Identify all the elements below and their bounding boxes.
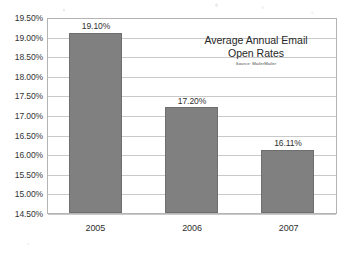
y-axis-tick-label: 16.50% (15, 131, 43, 140)
bar-2006[interactable]: 17.20% (165, 107, 218, 213)
x-axis-label-2007: 2007 (240, 216, 337, 236)
y-axis-tick-label: 15.50% (15, 171, 43, 180)
y-axis-tick-label: 19.00% (15, 33, 43, 42)
bar-2007[interactable]: 16.11% (261, 150, 314, 213)
x-axis: 200520062007 (47, 216, 337, 236)
plot-area: 19.10%17.20%16.11% Average Annual Email … (47, 18, 337, 214)
bar-value-label: 17.20% (178, 97, 206, 106)
y-axis: 19.50%19.00%18.50%18.00%17.50%17.00%16.5… (0, 18, 47, 214)
y-axis-tick-label: 17.00% (15, 112, 43, 121)
y-axis-tick-label: 19.50% (15, 14, 43, 23)
y-axis-tick-label: 18.00% (15, 73, 43, 82)
bar-slot: 17.20% (144, 18, 240, 213)
bar-slot: 16.11% (240, 18, 336, 213)
bar-slot: 19.10% (48, 18, 144, 213)
x-axis-label-2006: 2006 (144, 216, 241, 236)
y-axis-tick-label: 18.50% (15, 53, 43, 62)
x-axis-label-2005: 2005 (47, 216, 144, 236)
gridline (48, 214, 336, 215)
bar-value-label: 16.11% (274, 139, 302, 148)
y-axis-tick-label: 15.00% (15, 190, 43, 199)
bar-series: 19.10%17.20%16.11% (48, 18, 336, 213)
bar-value-label: 19.10% (82, 22, 110, 31)
y-axis-tick-label: 17.50% (15, 92, 43, 101)
y-axis-tick-label: 14.50% (15, 210, 43, 219)
bar-chart: 19.50%19.00%18.50%18.00%17.50%17.00%16.5… (0, 0, 355, 254)
y-axis-tick-label: 16.00% (15, 151, 43, 160)
bar-2005[interactable]: 19.10% (69, 33, 122, 213)
